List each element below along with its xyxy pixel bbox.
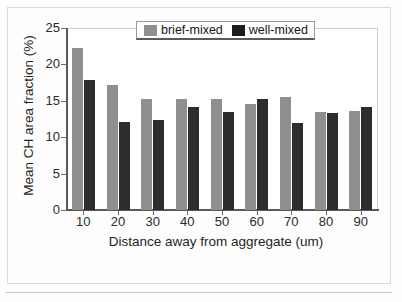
- chart-legend: brief-mixed well-mixed: [136, 21, 315, 40]
- bar-brief-mixed-60: [245, 104, 256, 210]
- x-tick-label: 70: [274, 215, 308, 228]
- bar-well-mixed-10: [84, 80, 95, 210]
- y-tick-label: 20: [34, 57, 60, 70]
- bar-well-mixed-40: [188, 107, 199, 210]
- figure-chart-ch-area-fraction: 0510152025 102030405060708090 Mean CH ar…: [0, 0, 402, 302]
- bar-well-mixed-80: [327, 113, 338, 210]
- bar-brief-mixed-20: [107, 85, 118, 210]
- bar-well-mixed-70: [292, 123, 303, 210]
- x-tick-label: 30: [136, 215, 170, 228]
- legend-entry-brief-mixed: brief-mixed: [144, 24, 223, 37]
- legend-entry-well-mixed: well-mixed: [232, 24, 308, 37]
- bar-brief-mixed-80: [315, 112, 326, 210]
- legend-swatch-brief-mixed: [144, 25, 157, 36]
- legend-swatch-well-mixed: [232, 25, 245, 36]
- x-tick-label: 80: [309, 215, 343, 228]
- x-axis-title: Distance away from aggregate (um): [46, 234, 386, 249]
- legend-label-brief-mixed: brief-mixed: [161, 24, 223, 37]
- bar-brief-mixed-10: [72, 48, 83, 210]
- bar-well-mixed-60: [257, 99, 268, 210]
- bar-well-mixed-90: [361, 107, 372, 210]
- bar-brief-mixed-70: [280, 97, 291, 210]
- x-tick-label: 90: [344, 215, 378, 228]
- y-tick-mark: [61, 210, 67, 211]
- y-tick-label: 0: [34, 203, 60, 216]
- bar-brief-mixed-90: [349, 111, 360, 210]
- bar-brief-mixed-30: [141, 99, 152, 210]
- legend-label-well-mixed: well-mixed: [249, 24, 308, 37]
- y-tick-label: 5: [34, 167, 60, 180]
- y-tick-label: 25: [34, 21, 60, 34]
- bar-series-layer: [66, 28, 378, 210]
- bar-well-mixed-20: [119, 122, 130, 210]
- bar-brief-mixed-50: [211, 99, 222, 210]
- bar-well-mixed-50: [223, 112, 234, 210]
- x-tick-label: 50: [205, 215, 239, 228]
- x-tick-label: 40: [170, 215, 204, 228]
- y-tick-label: 15: [34, 94, 60, 107]
- x-tick-label: 10: [66, 215, 100, 228]
- bar-well-mixed-30: [153, 120, 164, 210]
- page-rule: [6, 292, 392, 293]
- x-tick-label: 60: [240, 215, 274, 228]
- x-tick-label: 20: [101, 215, 135, 228]
- y-axis-title: Mean CH area fraction (%): [21, 26, 36, 206]
- bar-brief-mixed-40: [176, 99, 187, 210]
- y-tick-label: 10: [34, 130, 60, 143]
